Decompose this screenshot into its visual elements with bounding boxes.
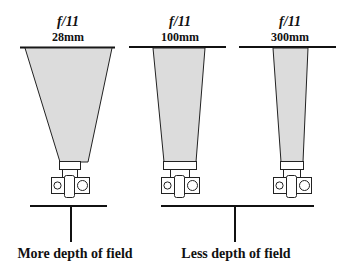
outcome-label: More depth of field — [17, 246, 132, 261]
lens-group-300mm: f/11 300mm — [239, 14, 336, 198]
view-cone — [25, 48, 112, 162]
focal-length-label: 300mm — [271, 30, 309, 44]
lens-group-28mm: f/11 28mm — [20, 14, 115, 198]
camera-body-icon — [274, 176, 312, 198]
outcome-more-dof: More depth of field — [17, 206, 132, 261]
focal-length-label: 100mm — [161, 30, 199, 44]
lens-collar — [281, 162, 304, 170]
view-cone — [153, 48, 205, 162]
outcome-label: Less depth of field — [181, 246, 291, 261]
camera-body-icon — [52, 176, 90, 198]
aperture-label: f/11 — [169, 14, 191, 29]
lens-collar — [60, 162, 81, 170]
aperture-label: f/11 — [57, 14, 79, 29]
focal-length-label: 28mm — [52, 30, 84, 44]
view-cone — [273, 48, 308, 162]
aperture-label: f/11 — [279, 14, 301, 29]
depth-of-field-diagram: f/11 28mm f/11 100mm f/11 300mm — [0, 0, 352, 274]
lens-group-100mm: f/11 100mm — [129, 14, 226, 198]
camera-body-icon — [162, 176, 200, 198]
lens-collar — [164, 162, 197, 170]
outcome-less-dof: Less depth of field — [161, 206, 314, 261]
